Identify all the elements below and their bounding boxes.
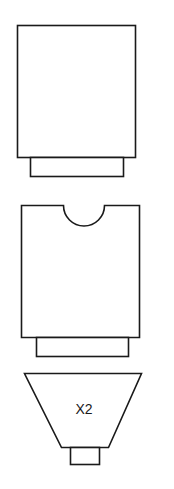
funnel-label: X2 xyxy=(75,401,92,417)
rectangle-base xyxy=(31,158,124,177)
shape-notched-rectangle-with-base xyxy=(22,206,140,357)
rectangle-body xyxy=(18,26,136,158)
diagram-canvas: X2 xyxy=(0,0,174,489)
notched-rectangle-base xyxy=(37,338,129,357)
shape-funnel-with-nozzle xyxy=(25,374,142,465)
shape-rectangle-with-base xyxy=(18,26,136,177)
funnel-nozzle xyxy=(71,448,100,465)
notched-rectangle-body xyxy=(22,206,140,338)
